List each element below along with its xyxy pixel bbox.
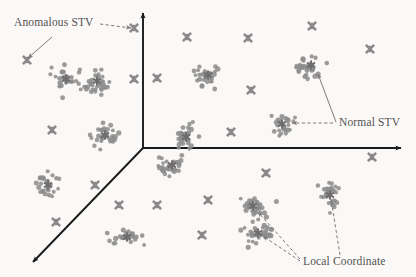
data-point — [253, 210, 258, 215]
data-point — [246, 245, 251, 250]
data-point — [129, 240, 133, 244]
anomalous-markers-layer — [23, 22, 376, 239]
annotation-arrow-normal-arrow-solid — [318, 74, 336, 122]
data-point — [293, 116, 297, 120]
data-point — [89, 136, 93, 140]
data-point — [48, 72, 52, 76]
data-point — [46, 169, 50, 173]
data-point — [54, 75, 58, 79]
data-point — [92, 144, 96, 148]
data-point — [157, 155, 162, 160]
data-point — [310, 54, 314, 58]
scatter-figure: Anomalous STV Normal STV Local Coordinat… — [0, 0, 416, 277]
data-point — [261, 230, 265, 234]
data-point — [161, 161, 165, 165]
anomalous-stv-marker — [244, 34, 252, 42]
data-point — [329, 181, 334, 186]
anomalous-stv-marker — [204, 196, 212, 204]
data-point — [256, 217, 260, 221]
anomalous-stv-marker — [48, 126, 56, 134]
data-point — [210, 80, 214, 84]
data-point — [177, 145, 181, 149]
data-point — [291, 119, 295, 123]
cluster-c13 — [316, 181, 341, 215]
data-point — [195, 78, 199, 82]
data-point — [142, 243, 146, 247]
data-point — [107, 238, 112, 243]
cluster-c6 — [192, 64, 221, 91]
data-point — [261, 226, 265, 230]
data-point — [108, 123, 113, 128]
data-point — [328, 211, 332, 215]
anomalous-stv-marker — [115, 201, 123, 209]
data-point — [239, 197, 243, 201]
anomalous-stv-marker — [130, 75, 138, 83]
data-point — [99, 67, 103, 71]
annotation-arrow-anomalous-arrow-dashed — [100, 24, 131, 28]
data-point — [179, 153, 184, 158]
data-point — [91, 84, 95, 88]
data-point — [246, 233, 250, 237]
cluster-c11 — [239, 196, 279, 221]
data-point — [202, 78, 206, 82]
data-point — [99, 92, 104, 97]
data-point — [57, 84, 62, 89]
data-point — [116, 130, 121, 135]
data-point — [279, 114, 284, 119]
coordinate-axes — [33, 13, 401, 262]
anomalous-stv-marker — [247, 86, 255, 94]
data-point — [197, 65, 201, 69]
data-point — [176, 168, 181, 173]
data-point — [93, 90, 97, 94]
data-point — [131, 231, 135, 235]
data-point — [87, 79, 92, 84]
data-point — [50, 66, 54, 70]
data-point — [316, 183, 321, 188]
anomalous-stv-marker — [366, 45, 374, 53]
data-point — [322, 187, 327, 192]
annotation-arrow-anomalous-arrow-solid — [28, 37, 52, 58]
data-point — [101, 120, 106, 125]
data-point — [161, 165, 165, 169]
data-point — [191, 120, 195, 124]
data-point — [140, 233, 145, 238]
data-point — [332, 198, 336, 202]
cluster-c2 — [48, 62, 86, 100]
data-point — [270, 114, 274, 118]
data-point — [297, 68, 302, 73]
data-point — [192, 69, 197, 74]
anomalous-stv-marker — [91, 181, 99, 189]
annotation-label-local-coordinate: Local Coordinate — [303, 255, 386, 267]
data-point — [266, 233, 271, 238]
data-point — [179, 158, 184, 163]
data-point — [60, 70, 65, 75]
anomalous-stv-marker — [183, 33, 191, 41]
data-point — [279, 131, 283, 135]
data-point — [34, 181, 39, 186]
data-point — [212, 87, 217, 92]
data-point — [54, 176, 58, 180]
data-point — [79, 87, 83, 91]
cluster-points-layer — [34, 54, 341, 249]
data-point — [52, 190, 56, 194]
annotation-arrow-local-arrow-2 — [263, 236, 300, 261]
data-point — [197, 73, 201, 77]
anomalous-stv-marker — [198, 231, 206, 239]
data-point — [200, 83, 204, 87]
data-point — [336, 186, 341, 191]
data-point — [93, 68, 98, 73]
anomalous-stv-marker — [368, 153, 376, 161]
anomalous-stv-marker — [308, 22, 316, 30]
data-point — [186, 125, 191, 130]
data-point — [247, 239, 251, 243]
data-point — [254, 241, 258, 245]
data-point — [321, 195, 325, 199]
data-point — [113, 236, 118, 241]
data-point — [313, 56, 317, 60]
data-point — [105, 231, 110, 236]
data-point — [189, 143, 194, 148]
data-point — [305, 76, 310, 81]
annotation-label-anomalous-stv: Anomalous STV — [14, 16, 94, 28]
data-point — [196, 68, 200, 72]
data-point — [163, 172, 167, 176]
